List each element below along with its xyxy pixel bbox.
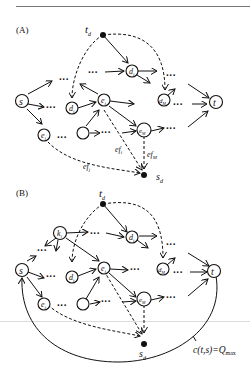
source-node-td: [100, 201, 106, 207]
ellipsis: ···: [166, 239, 176, 250]
panel-a-label: (A): [16, 25, 29, 35]
edge-dots-eM: [122, 301, 136, 302]
dashed-edge-td-dM: [103, 34, 165, 90]
edge-dots-eM: [122, 131, 136, 133]
ellipsis: ···: [37, 245, 47, 256]
node-label-td: td: [85, 23, 92, 37]
edge-s-ej: [27, 277, 42, 297]
ellipsis: ···: [166, 70, 176, 81]
edge-node-right: [90, 302, 100, 304]
ellipsis: ···: [101, 127, 111, 138]
edge-td-di: [103, 35, 128, 63]
dashed-edge-ei-sd: [104, 110, 142, 170]
edge-ei-right: [110, 101, 134, 104]
edge-s-up: [27, 256, 36, 261]
sink-node-sd: [141, 172, 147, 178]
edge-dM-up: [167, 89, 175, 96]
edge-dots-di: [105, 71, 124, 72]
node-t: [210, 96, 223, 109]
node-t: [208, 265, 221, 278]
edge-ki-ei: [66, 238, 99, 261]
edge-to-t-low: [188, 279, 208, 296]
edge-dots-di: [106, 233, 124, 237]
dashed-edge-td-dM: [103, 203, 163, 258]
dashed-edge-ej-sd: [48, 142, 140, 173]
edge-dM-up: [167, 258, 175, 265]
edge-to-t-low: [188, 111, 208, 127]
edge-td-di: [103, 204, 127, 232]
network-diagram: (A) ··· ··· ··· ··· ··· ··· ···: [0, 0, 250, 380]
node-label-s: s: [19, 96, 23, 107]
edge-to-t-high: [188, 253, 209, 266]
edge-ei-up: [80, 84, 98, 94]
panel-b-label: (B): [16, 188, 28, 198]
source-node-td: [100, 32, 106, 38]
edge-eM-right: [151, 297, 164, 300]
edge-ei-eM: [109, 273, 136, 297]
capacity-annotation: c(t,s)=Qmax: [193, 345, 236, 356]
node-unlabeled: [77, 127, 89, 139]
node-label-s: s: [19, 265, 23, 276]
annotation-leader: [193, 336, 196, 341]
node-label-td: td: [99, 187, 106, 201]
node-label-sd: sd: [156, 171, 164, 184]
ellipsis: ···: [101, 296, 111, 307]
ellipsis: ···: [59, 74, 69, 85]
edge-to-t-high: [188, 84, 209, 98]
ellipsis: ···: [46, 102, 56, 113]
edge-s-right: [28, 104, 44, 107]
panel-b: (B) ··· ··· ···: [16, 187, 236, 362]
edge-label-efM: efM: [147, 150, 158, 160]
ellipsis: ···: [90, 228, 100, 239]
ellipsis: ···: [130, 264, 140, 275]
ellipsis: ···: [166, 123, 176, 134]
edge-node-ei: [86, 277, 99, 299]
panel-a: (A) ··· ··· ··· ··· ··· ··· ···: [16, 23, 223, 184]
ellipsis: ···: [173, 99, 183, 110]
sink-node-sd: [141, 341, 147, 347]
edge-label-efi: efi: [115, 145, 123, 155]
ellipsis: ···: [46, 271, 56, 282]
edge-s-ej: [27, 109, 42, 124]
ellipsis: ···: [166, 292, 176, 303]
ellipsis: ···: [173, 267, 183, 278]
node-label-sd: sd: [139, 348, 147, 361]
ellipsis: ···: [88, 67, 98, 78]
edge-dj-ei: [78, 102, 96, 108]
ellipsis: ···: [57, 132, 67, 143]
ellipsis: ···: [57, 300, 67, 311]
edge-ei-eM: [109, 106, 136, 126]
edge-di-down: [137, 75, 150, 83]
node-unlabeled: [77, 298, 89, 310]
return-edge-t-s: [22, 276, 217, 362]
edge-ki-down: [56, 240, 58, 251]
node-label-t: t: [211, 266, 214, 277]
edge-ei-right: [110, 269, 128, 270]
edge-eM-right: [151, 128, 164, 131]
edge-di-down: [137, 240, 148, 248]
node-label-t: t: [213, 97, 216, 108]
edge-ki-right: [66, 232, 88, 233]
edge-node-ei: [86, 110, 99, 126]
edge-s-up: [28, 81, 52, 94]
edge-s-right: [28, 272, 44, 278]
edge-dj-ei: [78, 269, 96, 276]
